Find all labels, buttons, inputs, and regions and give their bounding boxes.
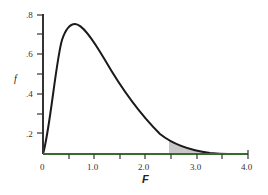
x-tick-label: 2.0 [138,162,150,172]
y-tick-label: .6 [26,49,33,59]
y-tick-label: .2 [26,129,33,139]
f-distribution-chart: .8 .6 .4 .2 0 1.0 2.0 3.0 4.0 f F [0,0,268,195]
x-tick-label: 4.0 [241,162,253,172]
x-tick-label: 0 [40,162,45,172]
x-tick-label: 3.0 [190,162,202,172]
x-tick-label: 1.0 [87,162,99,172]
y-tick-label: .4 [26,89,33,99]
x-axis-title: F [142,173,149,185]
shaded-tail-region [169,141,225,154]
y-tick-label: .8 [26,10,33,20]
density-curve [43,24,228,154]
y-axis-title: f [14,73,18,84]
